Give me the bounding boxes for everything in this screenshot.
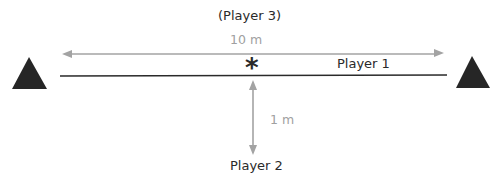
diagram-canvas bbox=[0, 0, 497, 180]
player2-label: Player 2 bbox=[230, 158, 283, 173]
vertical-distance-arrow bbox=[249, 80, 257, 155]
horizontal-distance-label: 10 m bbox=[230, 32, 262, 47]
player1-label: Player 1 bbox=[337, 56, 390, 71]
right-cone-triangle bbox=[456, 56, 490, 88]
player3-label: (Player 3) bbox=[218, 8, 281, 23]
vertical-distance-label: 1 m bbox=[270, 112, 294, 127]
position-marker-asterisk: * bbox=[245, 55, 259, 81]
left-cone-triangle bbox=[12, 57, 47, 89]
